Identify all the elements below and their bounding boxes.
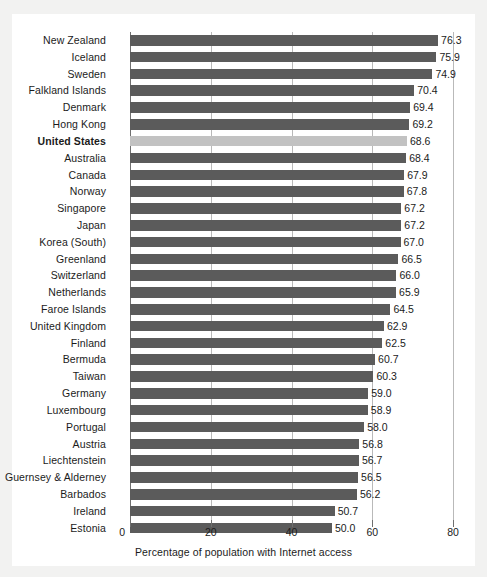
category-label-row: Finland	[12, 335, 118, 352]
bar-row: 66.5	[130, 251, 453, 268]
category-label: Hong Kong	[53, 116, 106, 133]
bar-row: 70.4	[130, 82, 453, 99]
bar	[130, 69, 432, 80]
category-label: Singapore	[57, 200, 106, 217]
category-label: Faroe Islands	[41, 301, 106, 318]
category-label: Sweden	[67, 66, 106, 83]
category-label-row: Germany	[12, 385, 118, 402]
bar	[130, 153, 406, 164]
bar	[130, 170, 404, 181]
bar	[130, 338, 382, 349]
bar	[130, 270, 396, 281]
bar-value-label: 70.4	[414, 82, 437, 99]
bar-row: 75.9	[130, 49, 453, 66]
bar-value-label: 65.9	[396, 284, 419, 301]
category-label-row: Greenland	[12, 251, 118, 268]
bar-row: 62.5	[130, 335, 453, 352]
bar-row: 67.8	[130, 183, 453, 200]
bar-value-label: 75.9	[436, 49, 459, 66]
category-label-row: Australia	[12, 150, 118, 167]
x-tick-0	[130, 520, 131, 527]
category-label: Japan	[77, 217, 106, 234]
bar-value-label: 56.5	[358, 469, 381, 486]
category-label-row: Hong Kong	[12, 116, 118, 133]
bar	[130, 203, 401, 214]
category-label: New Zealand	[43, 32, 106, 49]
x-tick-label-80: 80	[447, 526, 459, 538]
category-label-row: Faroe Islands	[12, 301, 118, 318]
category-label: Austria	[73, 436, 106, 453]
bar-value-label: 67.9	[404, 167, 427, 184]
category-label: Canada	[69, 167, 106, 184]
bar	[130, 35, 438, 46]
bar	[130, 136, 407, 147]
bar-chart: New ZealandIcelandSwedenFalkland Islands…	[12, 14, 475, 566]
category-label-row: Norway	[12, 183, 118, 200]
category-label: Estonia	[70, 520, 106, 537]
bar	[130, 472, 358, 483]
bar-value-label: 60.3	[373, 368, 396, 385]
bar-value-label: 56.2	[357, 486, 380, 503]
category-label-row: Estonia	[12, 520, 118, 537]
bar	[130, 287, 396, 298]
category-label-row: United Kingdom	[12, 318, 118, 335]
x-axis-title: Percentage of population with Internet a…	[12, 546, 475, 558]
category-label: Luxembourg	[47, 402, 106, 419]
bar	[130, 388, 368, 399]
category-label-row: New Zealand	[12, 32, 118, 49]
category-label-row: Japan	[12, 217, 118, 234]
category-label: Norway	[70, 183, 106, 200]
bar-row: 68.6	[130, 133, 453, 150]
category-label: Denmark	[63, 99, 106, 116]
bar-value-label: 74.9	[432, 66, 455, 83]
bar-value-label: 69.2	[409, 116, 432, 133]
category-label: Switzerland	[51, 267, 106, 284]
category-label-row: Portugal	[12, 419, 118, 436]
bar-value-label: 66.5	[398, 251, 421, 268]
bar-value-label: 59.0	[368, 385, 391, 402]
category-label: United States	[38, 133, 106, 150]
category-labels-column: New ZealandIcelandSwedenFalkland Islands…	[12, 32, 118, 536]
bar-value-label: 67.2	[401, 200, 424, 217]
category-label-row: Austria	[12, 436, 118, 453]
bar-row: 74.9	[130, 66, 453, 83]
bar-row: 56.8	[130, 436, 453, 453]
category-label: Portugal	[66, 419, 106, 436]
category-label-row: Bermuda	[12, 351, 118, 368]
bar-row: 69.2	[130, 116, 453, 133]
category-label-row: Denmark	[12, 99, 118, 116]
category-label: Australia	[64, 150, 106, 167]
category-label-row: Singapore	[12, 200, 118, 217]
bar-value-label: 68.6	[407, 133, 430, 150]
bar-row: 62.9	[130, 318, 453, 335]
category-label-row: Guernsey & Alderney	[12, 469, 118, 486]
category-label: Ireland	[73, 503, 106, 520]
bar-value-label: 76.3	[438, 32, 461, 49]
bar-value-label: 67.0	[401, 234, 424, 251]
bar-row: 66.0	[130, 267, 453, 284]
bar-value-label: 58.0	[364, 419, 387, 436]
plot-area: 76.375.974.970.469.469.268.668.467.967.8…	[130, 32, 453, 520]
category-label-row: Netherlands	[12, 284, 118, 301]
bar	[130, 186, 404, 197]
bar-value-label: 50.7	[335, 503, 358, 520]
x-tick-label-40: 40	[286, 526, 298, 538]
bar-value-label: 68.4	[406, 150, 429, 167]
category-label: Guernsey & Alderney	[5, 469, 106, 486]
chart-card: New ZealandIcelandSwedenFalkland Islands…	[12, 14, 475, 566]
bar	[130, 371, 373, 382]
category-label-row: Taiwan	[12, 368, 118, 385]
bar-row: 67.2	[130, 217, 453, 234]
bar	[130, 85, 414, 96]
category-label: Germany	[62, 385, 106, 402]
category-label: Iceland	[71, 49, 106, 66]
bar	[130, 102, 410, 113]
bar	[130, 422, 364, 433]
bar	[130, 354, 375, 365]
category-label: Netherlands	[48, 284, 106, 301]
page-background: New ZealandIcelandSwedenFalkland Islands…	[0, 0, 487, 577]
category-label-row: United States	[12, 133, 118, 150]
bar	[130, 506, 335, 517]
gridline-80	[453, 32, 454, 520]
category-label-row: Liechtenstein	[12, 452, 118, 469]
